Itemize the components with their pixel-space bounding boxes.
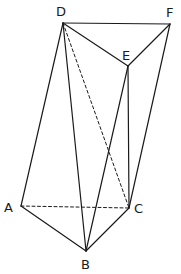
edge-eb (86, 66, 128, 251)
vertex-label-f: F (166, 6, 173, 19)
edge-de (63, 23, 128, 66)
vertex-label-d: D (56, 5, 66, 18)
edge-ef (128, 24, 170, 66)
edge-ac (21, 206, 129, 208)
edge-df (63, 23, 170, 24)
edge-db (63, 23, 86, 251)
edge-ab (21, 206, 86, 251)
edge-fc (129, 24, 170, 208)
vertex-label-e: E (122, 49, 130, 62)
edge-ec (128, 66, 129, 208)
vertex-label-c: C (134, 202, 143, 215)
geometry-figure (0, 0, 181, 274)
edge-bc (86, 208, 129, 251)
edge-da (21, 23, 63, 206)
vertex-label-a: A (4, 201, 13, 214)
vertex-label-b: B (81, 258, 90, 271)
